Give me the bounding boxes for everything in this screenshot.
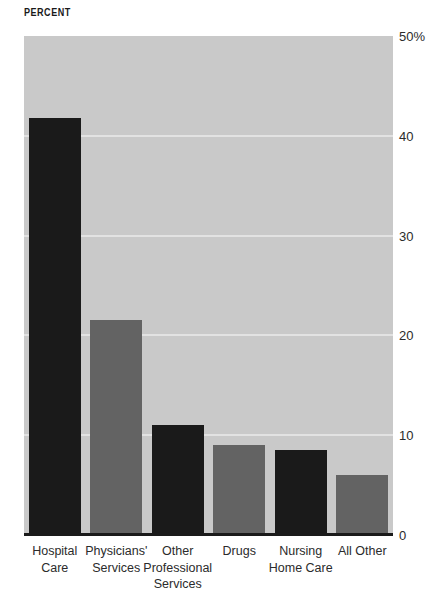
y-axis-tick-labels: 50%403020100 bbox=[0, 0, 440, 616]
x-axis-tick-label: All Other bbox=[326, 543, 400, 560]
y-axis-tick-label: 20 bbox=[399, 329, 413, 342]
y-axis-tick-label: 30 bbox=[399, 230, 413, 243]
y-axis-tick-label: 40 bbox=[399, 130, 413, 143]
y-axis-tick-label: 50% bbox=[399, 30, 425, 43]
y-axis-tick-label: 10 bbox=[399, 429, 413, 442]
y-axis-tick-label: 0 bbox=[399, 529, 406, 542]
bar-chart: PERCENT 50%403020100 Hospital CarePhysic… bbox=[0, 0, 440, 616]
